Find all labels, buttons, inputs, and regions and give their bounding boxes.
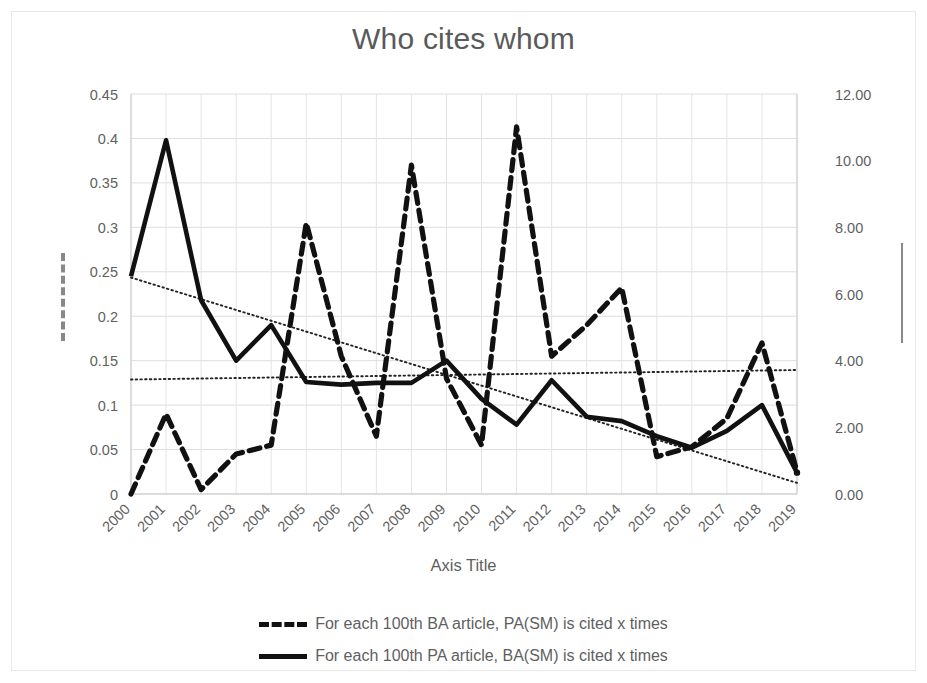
legend-swatch-dashed-icon [259, 622, 307, 627]
y-axis-left-tick: 0 [110, 487, 118, 503]
chart-legend: For each 100th BA article, PA(SM) is cit… [0, 608, 927, 672]
y-axis-left-tick: 0.2 [98, 309, 118, 325]
x-axis-tick: 2018 [730, 501, 764, 535]
gridlines [131, 94, 797, 494]
x-axis-tick: 2000 [99, 501, 133, 535]
x-axis-tick: 2016 [660, 501, 694, 535]
y-axis-left-tick: 0.3 [98, 220, 118, 236]
chart-container: Who cites whom 00.050.10.150.20.250.30.3… [0, 0, 927, 683]
left-margin-mark [61, 253, 69, 341]
y-axis-right-tick: 10.00 [835, 153, 871, 169]
x-axis-tick-labels: 2000200120022003200420052006200720082009… [99, 501, 799, 535]
x-axis-tick: 2010 [450, 501, 484, 535]
x-axis-tick: 2015 [625, 501, 659, 535]
y-axis-right-tick: 6.00 [835, 287, 863, 303]
x-axis-tick: 2004 [239, 501, 273, 535]
y-axis-right-tick: 12.00 [835, 87, 871, 103]
y-axis-left-tick: 0.35 [90, 175, 118, 191]
axis-lines [131, 94, 797, 494]
y-axis-right-tick: 8.00 [835, 220, 863, 236]
x-axis-tick: 2005 [274, 501, 308, 535]
x-axis-tick: 2003 [204, 501, 238, 535]
chart-plot-area: 00.050.10.150.20.250.30.350.40.45 0.002.… [0, 0, 927, 683]
y-axis-left-tick: 0.25 [90, 264, 118, 280]
series-line-ba-cites-pa [131, 127, 797, 494]
legend-item-solid: For each 100th PA article, BA(SM) is cit… [0, 640, 927, 672]
legend-item-dashed: For each 100th BA article, PA(SM) is cit… [0, 608, 927, 640]
legend-label-dashed: For each 100th BA article, PA(SM) is cit… [315, 615, 668, 633]
x-axis-tick: 2001 [134, 501, 168, 535]
y-axis-left-tick: 0.05 [90, 442, 118, 458]
series-line-pa-cites-ba [131, 140, 797, 472]
y-axis-left-tick: 0.15 [90, 353, 118, 369]
y-axis-right-tick: 0.00 [835, 487, 863, 503]
legend-label-solid: For each 100th PA article, BA(SM) is cit… [315, 647, 668, 665]
y-axis-right-tick: 2.00 [835, 420, 863, 436]
series-end-marker [794, 469, 800, 475]
data-series [131, 127, 800, 494]
x-axis-tick: 2017 [695, 501, 729, 535]
x-axis-tick: 2011 [485, 501, 518, 534]
legend-swatch-solid-icon [259, 654, 307, 659]
x-axis-tick: 2002 [169, 501, 203, 535]
x-axis-tick: 2006 [309, 501, 343, 535]
y-axis-left-tick-labels: 00.050.10.150.20.250.30.350.40.45 [90, 87, 118, 503]
y-axis-right-tick: 4.00 [835, 353, 863, 369]
x-axis-tick: 2014 [590, 501, 624, 535]
x-axis-title: Axis Title [0, 556, 927, 575]
x-axis-tick: 2013 [555, 501, 589, 535]
x-axis-tick: 2009 [414, 501, 448, 535]
y-axis-left-tick: 0.45 [90, 87, 118, 103]
y-axis-left-tick: 0.4 [98, 131, 118, 147]
right-margin-mark [901, 243, 903, 343]
x-axis-tick: 2007 [344, 501, 378, 535]
y-axis-right-tick-labels: 0.002.004.006.008.0010.0012.00 [835, 87, 871, 503]
x-axis-tick: 2012 [520, 501, 554, 535]
x-axis-tick: 2008 [379, 501, 413, 535]
x-axis-tick: 2019 [765, 501, 799, 535]
y-axis-left-tick: 0.1 [98, 398, 118, 414]
